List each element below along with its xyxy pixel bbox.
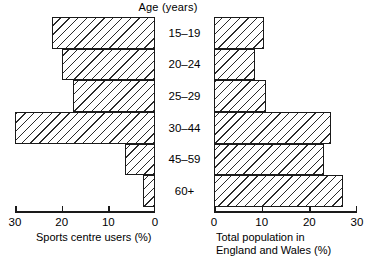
bar-right-4: [214, 112, 331, 144]
axis-tick-label: 10: [102, 216, 115, 228]
axis-tick: [214, 206, 216, 212]
bar-band: [214, 175, 357, 207]
right-axis-title: Total population inEngland and Wales (%): [216, 231, 331, 256]
bar-band: [15, 80, 155, 112]
bar-band: [214, 17, 357, 49]
axis-tick-label: 20: [303, 216, 316, 228]
bar-band: [214, 80, 357, 112]
right-axis-tick-labels: 0102030: [200, 216, 372, 230]
axis-tick-label: 10: [255, 216, 268, 228]
bar-left-3: [73, 80, 155, 112]
axis-tick: [62, 206, 64, 212]
axis-tick: [356, 206, 358, 212]
left-axis-line: [15, 211, 155, 213]
bar-band: [214, 112, 357, 144]
age-label-2: 20–24: [155, 49, 214, 81]
bar-left-1: [52, 17, 155, 49]
right-axis-line: [214, 211, 357, 213]
axis-tick-label: 20: [55, 216, 68, 228]
bar-band: [15, 175, 155, 207]
left-axis-title: Sports centre users (%): [36, 231, 152, 244]
axis-tick-label: 30: [9, 216, 22, 228]
axis-tick: [262, 206, 264, 212]
axis-tick: [108, 206, 110, 212]
bar-right-1: [214, 17, 264, 49]
bar-right-5: [214, 144, 324, 176]
axis-tick: [154, 206, 156, 212]
axis-tick-label: 0: [152, 216, 158, 228]
axis-title-line-1: Total population in: [216, 231, 331, 244]
age-label-1: 15–19: [155, 17, 214, 49]
bar-right-6: [214, 175, 343, 207]
age-label-5: 45–59: [155, 144, 214, 176]
bar-right-3: [214, 80, 266, 112]
bar-band: [15, 17, 155, 49]
population-pyramid-chart: Age (years) 15–1920–2425–2930–4445–5960+…: [0, 0, 372, 265]
bar-left-6: [143, 175, 155, 207]
right-plot-area: [214, 17, 357, 207]
axis-tick: [15, 206, 17, 212]
axis-tick-label: 30: [351, 216, 364, 228]
bar-band: [15, 144, 155, 176]
axis-title-line-2: England and Wales (%): [216, 244, 331, 257]
age-category-column: 15–1920–2425–2930–4445–5960+: [155, 17, 214, 207]
bar-left-2: [62, 49, 155, 81]
bar-band: [214, 49, 357, 81]
age-label-6: 60+: [155, 175, 214, 207]
axis-tick-label: 0: [211, 216, 217, 228]
bar-left-4: [15, 112, 155, 144]
bar-band: [15, 112, 155, 144]
age-label-4: 30–44: [155, 112, 214, 144]
left-plot-area: [15, 17, 155, 207]
left-axis-tick-labels: 3020100: [0, 216, 175, 230]
chart-title: Age (years): [108, 1, 228, 13]
axis-title-line-1: Sports centre users (%): [36, 231, 152, 244]
bar-right-2: [214, 49, 255, 81]
bar-left-5: [125, 144, 155, 176]
age-label-3: 25–29: [155, 80, 214, 112]
axis-tick: [309, 206, 311, 212]
bar-band: [214, 144, 357, 176]
bar-band: [15, 49, 155, 81]
